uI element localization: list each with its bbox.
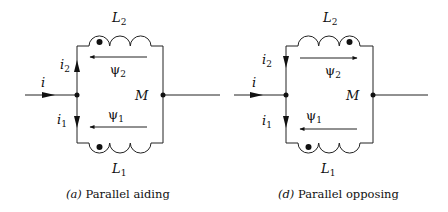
inductor-l2 — [286, 36, 373, 46]
polarity-dot-icon — [306, 144, 312, 150]
i2-arrow-down-icon — [283, 56, 289, 68]
label-l1: L1 — [320, 161, 335, 178]
polarity-dot-icon — [97, 39, 103, 45]
junction-dot-left — [75, 93, 80, 98]
label-l1: L1 — [111, 161, 126, 178]
input-current-arrow-icon — [42, 92, 55, 98]
label-l2: L2 — [322, 10, 337, 27]
caption-parallel-aiding: (a) Parallel aiding — [66, 187, 170, 201]
caption-parallel-opposing: (d) Parallel opposing — [278, 187, 399, 201]
label-psi1: ψ1 — [306, 108, 322, 125]
diagram-canvas: L2 L1 i i2 i1 ψ2 ψ1 M (a) Parallel aidin… — [0, 0, 448, 212]
label-i2: i2 — [60, 57, 70, 74]
i1-arrow-down-icon — [283, 116, 289, 128]
label-i1: i1 — [57, 112, 67, 129]
i1-arrow-down-icon — [74, 116, 80, 128]
label-mutual: M — [345, 88, 360, 103]
inductor-l2 — [77, 36, 163, 46]
circuit-parallel-opposing: L2 L1 i i2 i1 ψ2 ψ1 M (d) Parallel oppos… — [234, 10, 428, 201]
junction-dot-left — [284, 93, 289, 98]
junction-dot-right — [371, 93, 376, 98]
label-input-current: i — [252, 75, 256, 90]
label-l2: L2 — [111, 10, 126, 27]
label-psi1: ψ1 — [108, 107, 124, 124]
inductor-l1 — [77, 143, 163, 153]
label-input-current: i — [41, 75, 45, 90]
inductor-l1 — [286, 143, 373, 153]
i2-arrow-up-icon — [74, 60, 80, 72]
polarity-dot-icon — [347, 39, 353, 45]
label-i1: i1 — [262, 113, 272, 130]
input-current-arrow-icon — [250, 92, 263, 98]
label-mutual: M — [134, 88, 149, 103]
label-i2: i2 — [262, 52, 272, 69]
junction-dot-right — [161, 93, 166, 98]
circuit-parallel-aiding: L2 L1 i i2 i1 ψ2 ψ1 M (a) Parallel aidin… — [25, 10, 220, 201]
label-psi2: ψ2 — [325, 63, 341, 80]
polarity-dot-icon — [97, 144, 103, 150]
label-psi2: ψ2 — [110, 62, 126, 79]
